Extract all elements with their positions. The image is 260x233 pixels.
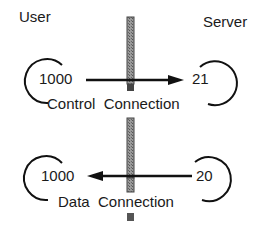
control-server-port: 21 <box>192 71 209 86</box>
server-label: Server <box>203 14 247 29</box>
barrier <box>127 17 134 221</box>
arrow-left-icon <box>87 171 103 181</box>
data-connection-caption: Data Connection <box>58 194 174 209</box>
control-connection-caption: Control Connection <box>47 96 180 111</box>
data-server-port: 20 <box>196 168 213 183</box>
arrow-right-icon <box>168 75 184 85</box>
data-client-port: 1000 <box>41 168 74 183</box>
user-label: User <box>19 9 51 24</box>
control-client-port: 1000 <box>39 71 72 86</box>
